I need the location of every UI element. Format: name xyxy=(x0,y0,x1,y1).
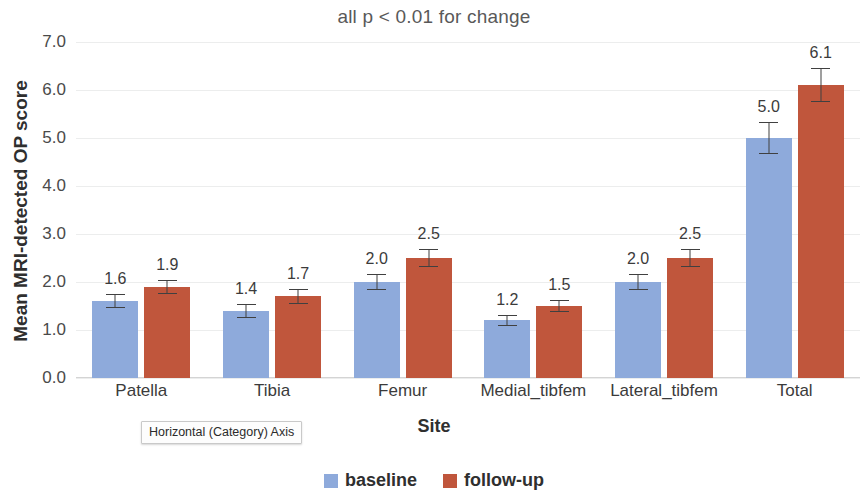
chart-container: all p < 0.01 for change Mean MRI-detecte… xyxy=(0,0,868,502)
error-bar-cap-top xyxy=(367,274,386,275)
error-bar xyxy=(820,68,821,103)
bar-value-label: 1.6 xyxy=(104,270,126,288)
bar-value-label: 2.0 xyxy=(627,250,649,268)
bar-group: 1.41.7 xyxy=(207,42,338,378)
bar-pair: 1.41.7 xyxy=(207,42,338,378)
error-bar-cap-top xyxy=(419,249,438,250)
bar-group: 1.61.9 xyxy=(76,42,207,378)
error-bar-cap-bottom xyxy=(498,325,517,326)
gridline xyxy=(76,378,860,379)
bar-value-label: 5.0 xyxy=(758,98,780,116)
error-bar-cap-bottom xyxy=(759,153,778,154)
error-bar-cap-top xyxy=(106,294,125,295)
plot-area: 1.61.91.41.72.02.51.21.52.02.55.06.1 xyxy=(76,42,860,378)
bar-groups: 1.61.91.41.72.02.51.21.52.02.55.06.1 xyxy=(76,42,860,378)
bar-value-label: 2.0 xyxy=(366,250,388,268)
bar-follow-up[interactable] xyxy=(406,258,452,378)
error-bar xyxy=(559,300,560,312)
bar-baseline[interactable] xyxy=(746,138,792,378)
x-axis-tick-label: Tibia xyxy=(207,381,338,407)
error-bar xyxy=(638,274,639,290)
error-bar-cap-bottom xyxy=(681,266,700,267)
bar-follow-up[interactable] xyxy=(144,287,190,378)
bar-column: 6.1 xyxy=(798,42,844,378)
bar-baseline[interactable] xyxy=(92,301,138,378)
error-bar-cap-bottom xyxy=(158,293,177,294)
error-bar-cap-top xyxy=(629,274,648,275)
bar-column: 1.7 xyxy=(275,42,321,378)
bar-follow-up[interactable] xyxy=(798,85,844,378)
bar-group: 2.02.5 xyxy=(337,42,468,378)
legend-label: baseline xyxy=(345,470,417,491)
bar-pair: 1.61.9 xyxy=(76,42,207,378)
legend-swatch-icon xyxy=(324,474,338,488)
error-bar-cap-top xyxy=(158,280,177,281)
y-axis-tick-label: 1.0 xyxy=(20,320,66,340)
error-bar-cap-top xyxy=(498,315,517,316)
legend-item[interactable]: follow-up xyxy=(443,470,544,491)
x-axis-title: Site xyxy=(0,416,868,437)
bar-value-label: 2.5 xyxy=(679,225,701,243)
y-axis-tick-label: 0.0 xyxy=(20,368,66,388)
error-bar-cap-bottom xyxy=(629,289,648,290)
bar-column: 1.6 xyxy=(92,42,138,378)
y-axis-tick-labels: 0.01.02.03.04.05.06.07.0 xyxy=(18,42,66,378)
bar-follow-up[interactable] xyxy=(275,296,321,378)
bar-group: 1.21.5 xyxy=(468,42,599,378)
bar-baseline[interactable] xyxy=(484,320,530,378)
bar-group: 2.02.5 xyxy=(599,42,730,378)
bar-follow-up[interactable] xyxy=(667,258,713,378)
error-bar-cap-bottom xyxy=(550,311,569,312)
error-bar xyxy=(768,122,769,154)
error-bar xyxy=(115,294,116,307)
error-bar-cap-bottom xyxy=(237,317,256,318)
y-axis-tick-label: 5.0 xyxy=(20,128,66,148)
legend-swatch-icon xyxy=(443,474,457,488)
error-bar-cap-bottom xyxy=(289,303,308,304)
error-bar-cap-bottom xyxy=(367,289,386,290)
y-axis-tick-label: 7.0 xyxy=(20,32,66,52)
bar-baseline[interactable] xyxy=(354,282,400,378)
x-axis-tick-label: Femur xyxy=(337,381,468,407)
y-axis-tick-label: 4.0 xyxy=(20,176,66,196)
x-axis-tick-label: Lateral_tibfem xyxy=(599,381,730,407)
error-bar-cap-top xyxy=(681,249,700,250)
bar-baseline[interactable] xyxy=(615,282,661,378)
chart-legend: baselinefollow-up xyxy=(0,470,868,491)
error-bar xyxy=(428,249,429,266)
bar-value-label: 1.2 xyxy=(496,291,518,309)
legend-item[interactable]: baseline xyxy=(324,470,417,491)
error-bar-cap-top xyxy=(811,68,830,69)
error-bar-cap-bottom xyxy=(419,266,438,267)
error-bar xyxy=(246,304,247,317)
error-bar-cap-bottom xyxy=(811,101,830,102)
bar-value-label: 6.1 xyxy=(810,44,832,62)
bar-follow-up[interactable] xyxy=(536,306,582,378)
error-bar xyxy=(298,289,299,303)
y-axis-tick-label: 6.0 xyxy=(20,80,66,100)
bar-column: 2.5 xyxy=(406,42,452,378)
x-axis-tick-label: Patella xyxy=(76,381,207,407)
error-bar xyxy=(167,280,168,294)
bar-column: 1.9 xyxy=(144,42,190,378)
y-axis-tick-label: 3.0 xyxy=(20,224,66,244)
bar-value-label: 1.4 xyxy=(235,280,257,298)
bar-column: 1.5 xyxy=(536,42,582,378)
bar-value-label: 1.5 xyxy=(548,276,570,294)
bar-baseline[interactable] xyxy=(223,311,269,378)
bar-pair: 2.02.5 xyxy=(599,42,730,378)
bar-pair: 1.21.5 xyxy=(468,42,599,378)
bar-group: 5.06.1 xyxy=(729,42,860,378)
bar-column: 2.0 xyxy=(615,42,661,378)
chart-title: all p < 0.01 for change xyxy=(0,6,868,28)
x-axis-tick-labels: PatellaTibiaFemurMedial_tibfemLateral_ti… xyxy=(76,381,860,407)
legend-label: follow-up xyxy=(464,470,544,491)
bar-pair: 5.06.1 xyxy=(729,42,860,378)
x-axis-tick-label: Medial_tibfem xyxy=(468,381,599,407)
bar-column: 2.0 xyxy=(354,42,400,378)
error-bar-cap-top xyxy=(759,122,778,123)
error-bar xyxy=(690,249,691,266)
x-axis-tick-label: Total xyxy=(729,381,860,407)
error-bar xyxy=(376,274,377,290)
bar-pair: 2.02.5 xyxy=(337,42,468,378)
